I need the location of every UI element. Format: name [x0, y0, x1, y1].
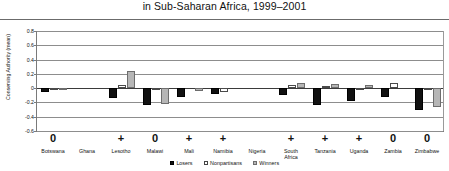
bar-nonpart	[288, 85, 296, 89]
bar-nonpart	[322, 86, 330, 88]
y-tick-label: -0.6	[0, 128, 34, 134]
y-axis-ticks: 0.80.60.40.20-0.2-0.4-0.6	[0, 31, 34, 131]
bar-winners	[195, 88, 203, 91]
y-tick-label: -0.4	[0, 114, 34, 120]
y-tick-label: -0.2	[0, 99, 34, 105]
legend-swatch-nonpartisans	[204, 161, 209, 166]
bar-losers	[41, 88, 49, 92]
gridline	[37, 45, 443, 46]
legend-label-nonpartisans: Nonpartisans	[210, 160, 242, 166]
title-divider	[0, 19, 449, 20]
bar-losers	[143, 88, 151, 104]
gridline	[37, 117, 443, 118]
gridline	[37, 60, 443, 61]
legend-label-losers: Losers	[176, 160, 192, 166]
bar-nonpart	[424, 88, 432, 90]
legend-item-winners: Winners	[253, 160, 279, 166]
significance-marker: 0	[36, 132, 70, 145]
significance-marker: +	[342, 132, 376, 145]
x-tick-label-line: Zimbabwe	[406, 148, 448, 154]
significance-marker: +	[206, 132, 240, 145]
bar-nonpart	[220, 88, 228, 92]
chart-area: Conserving Authority (mean) 0.80.60.40.2…	[0, 22, 449, 148]
y-tick-label: 0	[0, 85, 34, 91]
bar-nonpart	[356, 88, 364, 90]
significance-row: 0+0+++++00	[36, 132, 444, 146]
chart-legend: LosersNonpartisansWinners	[0, 158, 449, 168]
significance-marker: 0	[376, 132, 410, 145]
significance-marker: 0	[410, 132, 444, 145]
bar-winners	[59, 88, 67, 90]
legend-item-losers: Losers	[170, 160, 193, 166]
bar-nonpart	[152, 88, 160, 90]
chart-title: in Sub-Saharan Africa, 1999–2001	[0, 0, 449, 12]
bar-nonpart	[118, 85, 126, 88]
significance-marker: +	[274, 132, 308, 145]
y-tick-label: 0.6	[0, 42, 34, 48]
gridline	[37, 31, 443, 32]
plot-canvas	[36, 31, 444, 131]
bar-losers	[347, 88, 355, 101]
legend-swatch-winners	[253, 161, 258, 166]
bar-losers	[415, 88, 423, 109]
bar-nonpart	[50, 88, 58, 90]
bar-winners	[161, 88, 169, 104]
legend-item-nonpartisans: Nonpartisans	[204, 160, 242, 166]
bar-losers	[211, 88, 219, 94]
x-tick-label: Zimbabwe	[406, 148, 448, 154]
bar-winners	[331, 84, 339, 88]
y-tick-label: 0.2	[0, 71, 34, 77]
significance-marker: +	[104, 132, 138, 145]
y-tick-label: 0.8	[0, 28, 34, 34]
gridline	[37, 74, 443, 75]
legend-swatch-losers	[170, 161, 175, 166]
gridline	[37, 102, 443, 103]
significance-marker: 0	[138, 132, 172, 145]
bar-winners	[127, 71, 135, 88]
chart-root: in Sub-Saharan Africa, 1999–2001 Conserv…	[0, 0, 449, 171]
significance-marker: +	[308, 132, 342, 145]
bar-winners	[365, 85, 373, 89]
bar-losers	[109, 88, 117, 98]
y-tick-label: 0.4	[0, 57, 34, 63]
bar-losers	[279, 88, 287, 94]
bar-winners	[297, 83, 305, 88]
significance-marker: +	[172, 132, 206, 145]
bar-losers	[177, 88, 185, 97]
bar-losers	[381, 88, 389, 97]
legend-label-winners: Winners	[259, 160, 279, 166]
bar-nonpart	[390, 83, 398, 88]
bar-winners	[433, 88, 441, 107]
bar-losers	[313, 88, 321, 105]
